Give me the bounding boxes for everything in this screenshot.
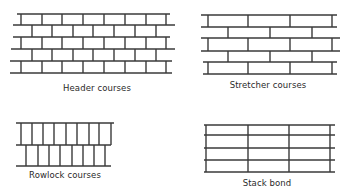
brick-bond-diagram <box>0 0 351 194</box>
panel-stack-bond <box>204 125 335 172</box>
panel-header-courses <box>10 14 175 73</box>
caption-stretcher-courses: Stretcher courses <box>230 80 307 90</box>
caption-rowlock-courses: Rowlock courses <box>29 170 101 180</box>
panel-stretcher-courses <box>201 15 340 74</box>
caption-header-courses: Header courses <box>63 83 131 93</box>
panel-rowlock-courses <box>16 123 114 166</box>
caption-stack-bond: Stack bond <box>243 178 292 188</box>
